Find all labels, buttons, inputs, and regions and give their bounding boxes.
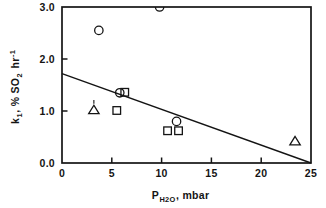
x-axis-title-text: PH2O, mbar <box>152 189 210 204</box>
x-axis-title: PH2O, mbar <box>152 189 210 204</box>
x-tick-label: 20 <box>255 167 267 179</box>
y-axis-title-text: k1, % SO2 hr-1 <box>8 50 24 124</box>
y-tick-label: 3.0 <box>40 1 56 13</box>
y-axis-title: k1, % SO2 hr-1 <box>8 50 24 124</box>
y-axis-tick-labels: 0.01.02.03.0 <box>40 1 56 169</box>
data-markers <box>89 3 301 145</box>
x-tick-label: 5 <box>109 167 115 179</box>
chart-canvas: 0510152025 0.01.02.03.0 PH2O, mbar k1, %… <box>0 0 326 208</box>
regression-line <box>62 74 311 163</box>
trend-line <box>62 74 311 163</box>
data-point-circle <box>95 26 103 34</box>
y-tick-label: 2.0 <box>40 53 56 65</box>
x-tick-label: 10 <box>155 167 167 179</box>
x-tick-label: 15 <box>205 167 217 179</box>
scatter-plot-figure: 0510152025 0.01.02.03.0 PH2O, mbar k1, %… <box>0 0 326 208</box>
y-tick-label: 1.0 <box>40 105 56 117</box>
x-tick-label: 25 <box>305 167 317 179</box>
data-point-triangle <box>290 136 300 144</box>
data-point-square <box>164 127 172 135</box>
data-point-triangle <box>89 105 99 113</box>
x-tick-label: 0 <box>59 167 65 179</box>
data-point-circle <box>172 117 180 125</box>
plot-border <box>62 7 311 163</box>
data-point-square <box>175 127 183 135</box>
y-tick-label: 0.0 <box>40 157 56 169</box>
plot-frame <box>62 7 311 163</box>
data-point-square <box>113 107 121 115</box>
x-axis-tick-labels: 0510152025 <box>59 167 317 179</box>
